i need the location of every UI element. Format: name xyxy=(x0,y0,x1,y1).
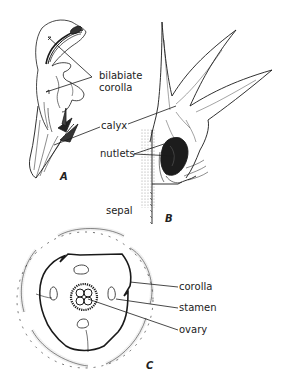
botanical-figure: bilabiate corolla calyx nutlets A sepal … xyxy=(0,0,291,387)
panel-label-c: C xyxy=(146,360,153,371)
label-calyx: calyx xyxy=(101,120,127,131)
panel-c-floral-diagram xyxy=(17,229,153,369)
label-stamen: stamen xyxy=(179,302,217,313)
panel-c-leader-lines xyxy=(88,282,178,330)
label-ovary: ovary xyxy=(179,324,207,335)
panel-a-flower-drawing xyxy=(29,20,86,178)
panel-label-a: A xyxy=(60,171,68,182)
label-corolla-a: corolla xyxy=(99,82,132,93)
label-corolla-c: corolla xyxy=(179,281,212,292)
label-sepal: sepal xyxy=(106,205,133,216)
figure-drawing xyxy=(0,0,291,387)
label-nutlets: nutlets xyxy=(100,148,135,159)
panel-b-calyx-drawing xyxy=(140,22,272,224)
panel-label-b: B xyxy=(165,213,173,224)
label-bilabiate: bilabiate xyxy=(99,70,142,81)
